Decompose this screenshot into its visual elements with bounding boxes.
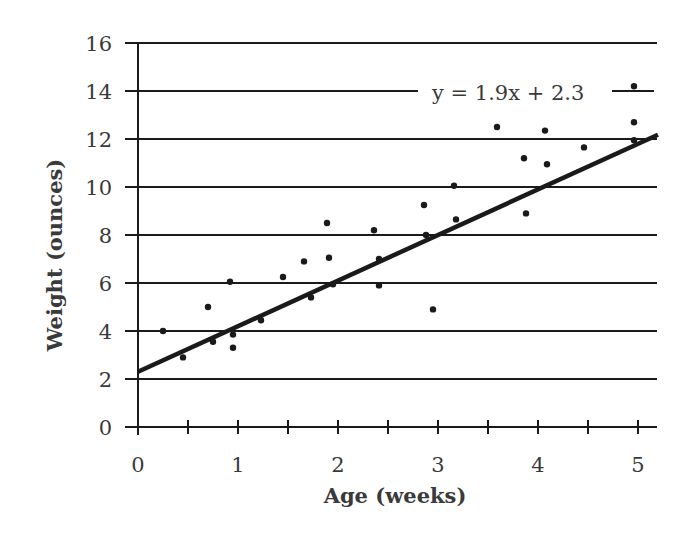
- scatter-chart: 0246810121416 012345 y = 1.9x + 2.3 Age …: [0, 0, 682, 542]
- x-axis-title: Age (weeks): [323, 483, 467, 508]
- data-point: [542, 127, 548, 133]
- data-point: [210, 339, 216, 345]
- data-point: [227, 279, 233, 285]
- data-point: [376, 256, 382, 262]
- equation-label: y = 1.9x + 2.3: [431, 81, 584, 105]
- data-point: [205, 304, 211, 310]
- data-point: [330, 281, 336, 287]
- x-tick-label: 2: [331, 453, 344, 477]
- data-point: [451, 183, 457, 189]
- data-points: [160, 83, 637, 361]
- data-point: [544, 161, 550, 167]
- data-point: [160, 328, 166, 334]
- data-point: [494, 124, 500, 130]
- data-point: [376, 282, 382, 288]
- y-tick-label: 4: [99, 320, 112, 344]
- y-tick-label: 10: [85, 176, 112, 200]
- y-tick-label: 8: [99, 224, 112, 248]
- x-tick-label: 1: [231, 453, 244, 477]
- data-point: [631, 119, 637, 125]
- x-tick-label: 3: [431, 453, 444, 477]
- data-point: [280, 274, 286, 280]
- data-point: [523, 210, 529, 216]
- best-fit-line: [138, 135, 658, 372]
- data-point: [301, 258, 307, 264]
- trend-line: [138, 135, 658, 372]
- x-tick-labels: 012345: [131, 453, 644, 477]
- y-tick-labels: 0246810121416: [85, 32, 112, 440]
- data-point: [423, 232, 429, 238]
- data-point: [258, 317, 264, 323]
- data-point: [631, 83, 637, 89]
- y-tick-label: 2: [99, 368, 112, 392]
- y-axis-title: Weight (ounces): [42, 159, 67, 353]
- data-point: [631, 137, 637, 143]
- data-point: [521, 155, 527, 161]
- x-tick-label: 0: [131, 453, 144, 477]
- data-point: [230, 331, 236, 337]
- data-point: [421, 202, 427, 208]
- data-point: [308, 294, 314, 300]
- data-point: [430, 306, 436, 312]
- y-tick-label: 0: [99, 416, 112, 440]
- data-point: [581, 144, 587, 150]
- data-point: [326, 255, 332, 261]
- data-point: [371, 227, 377, 233]
- y-tick-label: 14: [85, 80, 112, 104]
- data-point: [324, 220, 330, 226]
- data-point: [453, 216, 459, 222]
- data-point: [180, 354, 186, 360]
- y-tick-label: 6: [99, 272, 112, 296]
- x-tick-label: 5: [631, 453, 644, 477]
- x-tick-label: 4: [531, 453, 544, 477]
- data-point: [230, 345, 236, 351]
- y-tick-label: 16: [85, 32, 112, 56]
- y-tick-label: 12: [85, 128, 112, 152]
